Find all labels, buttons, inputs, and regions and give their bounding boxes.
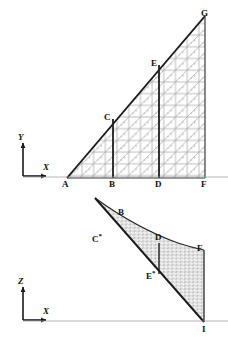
vertex-label-C-star: C* (92, 233, 102, 244)
vertex-label-I: I (202, 325, 206, 334)
vertex-label-C: C (104, 113, 111, 122)
vertex-label-F: F (201, 180, 207, 189)
vertex-label-B-lower: B (118, 208, 124, 217)
axis-label-x-top: X (43, 163, 49, 172)
vertex-label-D-lower: D (155, 233, 162, 242)
vertex-label-B: B (109, 180, 115, 189)
vertex-label-G: G (201, 9, 208, 18)
vertex-label-A: A (62, 180, 69, 189)
axis-label-x-bottom: X (43, 307, 49, 316)
axis-label-z: Z (18, 277, 24, 286)
top-panel-xy-mesh (23, 16, 228, 178)
vertex-label-E: E (151, 59, 157, 68)
axis-label-y: Y (18, 133, 24, 142)
technical-figure (0, 0, 228, 345)
bottom-panel-xz-surface (23, 198, 228, 322)
vertex-label-D: D (155, 180, 162, 189)
vertex-label-E-star: E* (146, 270, 156, 281)
vertex-label-F-lower: F (197, 244, 203, 253)
